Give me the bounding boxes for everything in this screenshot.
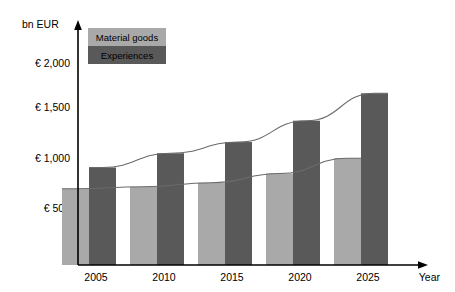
x-tick-label: 2015 — [220, 271, 244, 283]
x-axis-label: Year — [419, 271, 441, 283]
x-axis-arrow-icon — [418, 261, 428, 269]
x-tick-label: 2020 — [288, 271, 312, 283]
x-axis-tick-labels: 2005 2010 2015 2020 2025 — [84, 271, 380, 283]
x-tick-label: 2025 — [356, 271, 380, 283]
bar-experiences-2025 — [361, 93, 388, 265]
y-axis-unit-label: bn EUR — [22, 18, 59, 30]
bar-material-goods-2010 — [130, 187, 157, 265]
x-tick-label: 2005 — [84, 271, 108, 283]
y-tick-label: € 2,000 — [35, 57, 70, 69]
legend-label-material-goods: Material goods — [96, 32, 159, 43]
bar-material-goods-2025 — [334, 158, 361, 265]
y-tick-label: € 1,000 — [35, 152, 70, 164]
y-tick-label: € 1,500 — [35, 101, 70, 113]
bar-experiences-2015 — [225, 142, 252, 265]
legend: Material goods Experiences — [88, 28, 166, 64]
bars-group — [62, 93, 388, 265]
bar-material-goods-2005 — [62, 189, 89, 265]
chart-container: bn EUR € 2,000 € 1,500 € 1,000 € 500 200… — [0, 0, 455, 292]
bar-chart: bn EUR € 2,000 € 1,500 € 1,000 € 500 200… — [0, 0, 455, 292]
y-axis-arrow-icon — [74, 20, 82, 30]
x-tick-label: 2010 — [152, 271, 176, 283]
bar-experiences-2010 — [157, 153, 184, 265]
bar-experiences-2005 — [89, 167, 116, 265]
bar-material-goods-2015 — [198, 183, 225, 265]
legend-label-experiences: Experiences — [101, 50, 154, 61]
bar-experiences-2020 — [293, 121, 320, 265]
bar-material-goods-2020 — [266, 174, 293, 265]
